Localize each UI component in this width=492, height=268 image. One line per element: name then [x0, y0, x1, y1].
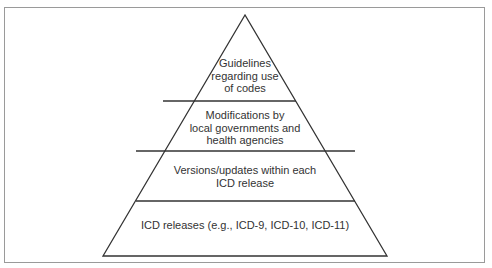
level-guidelines: Guidelines regarding use of codes: [211, 57, 278, 95]
label-line: regarding use: [211, 70, 278, 83]
label-line: health agencies: [190, 134, 301, 147]
label-line: Versions/updates within each: [174, 164, 316, 177]
label-line: of codes: [211, 82, 278, 95]
level-versions: Versions/updates within each ICD release: [174, 164, 316, 189]
label-line: Guidelines: [211, 57, 278, 70]
label-line: Modifications by: [190, 109, 301, 122]
label-line: ICD releases (e.g., ICD-9, ICD-10, ICD-1…: [141, 219, 349, 232]
label-line: local governments and: [190, 122, 301, 135]
level-modifications: Modifications by local governments and h…: [190, 109, 301, 147]
level-icd-releases: ICD releases (e.g., ICD-9, ICD-10, ICD-1…: [141, 219, 349, 232]
label-line: ICD release: [174, 177, 316, 190]
